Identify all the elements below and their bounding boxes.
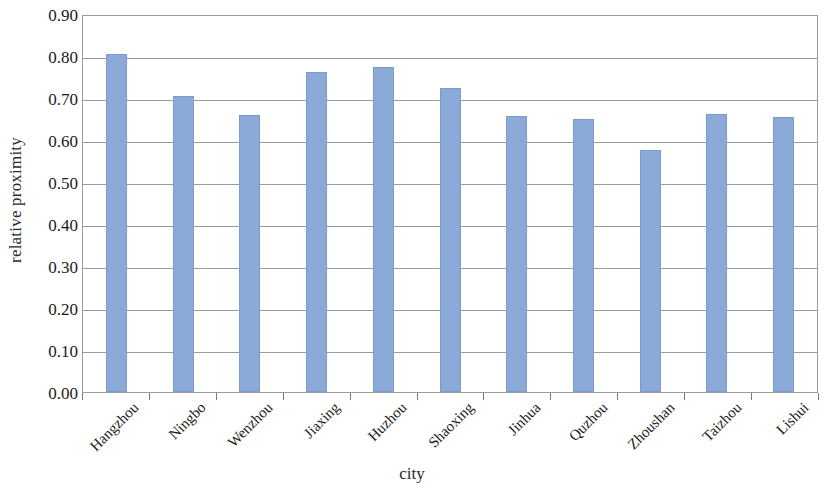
bars-layer	[83, 16, 817, 392]
x-axis-tick-label: Lishui	[773, 400, 811, 438]
x-axis-tick	[216, 393, 217, 400]
bar	[173, 96, 194, 392]
bar-slot	[216, 16, 283, 392]
y-axis-tick-label: 0.00	[28, 385, 78, 402]
x-axis-tick-label: Huzhou	[365, 400, 409, 444]
bar	[573, 119, 594, 392]
x-axis-title: city	[0, 464, 824, 484]
y-axis-tick-label: 0.70	[28, 91, 78, 108]
bar-slot	[283, 16, 350, 392]
x-axis-tick	[417, 393, 418, 400]
bar-slot	[150, 16, 217, 392]
x-axis-tick-label: Jinhua	[505, 400, 543, 438]
x-axis-tick	[283, 393, 284, 400]
bar-slot	[83, 16, 150, 392]
x-axis-tick-label: Taizhou	[700, 400, 745, 445]
y-axis-tick-label: 0.50	[28, 175, 78, 192]
bar-slot	[684, 16, 751, 392]
bar-slot	[750, 16, 817, 392]
x-axis-tick	[751, 393, 752, 400]
y-axis-tick-label: 0.90	[28, 7, 78, 24]
x-axis-tick-label: Zhoushan	[625, 400, 677, 452]
bar	[106, 54, 127, 392]
x-axis-tick-label: Jiaxing	[302, 400, 343, 441]
bar	[306, 72, 327, 392]
bar	[373, 67, 394, 393]
bar-slot	[617, 16, 684, 392]
y-axis-tick-label: 0.10	[28, 343, 78, 360]
x-axis-tick	[483, 393, 484, 400]
x-axis-tick-label: Ningbo	[167, 400, 209, 442]
bar-slot	[483, 16, 550, 392]
bar-slot	[550, 16, 617, 392]
y-axis-tick-label: 0.80	[28, 49, 78, 66]
bar-slot	[417, 16, 484, 392]
bar-chart: relative proximity 0.900.800.700.600.500…	[0, 0, 824, 494]
y-axis-tick-label: 0.60	[28, 133, 78, 150]
x-axis-tick-label: Wenzhou	[225, 400, 275, 450]
bar	[640, 150, 661, 392]
y-axis-tick-label: 0.30	[28, 259, 78, 276]
x-axis-tick	[818, 393, 819, 400]
x-axis-tick-label: Hangzhou	[88, 400, 142, 454]
bar	[506, 116, 527, 392]
x-axis-ticks	[82, 393, 818, 400]
bar-slot	[350, 16, 417, 392]
x-axis-tick-label: Quzhou	[566, 400, 610, 444]
bar	[773, 117, 794, 392]
plot-area	[82, 15, 818, 393]
bar	[239, 115, 260, 392]
y-axis-tick-label: 0.40	[28, 217, 78, 234]
x-axis-tick	[617, 393, 618, 400]
x-axis-tick-label: Shaoxing	[426, 400, 477, 451]
x-axis-tick	[82, 393, 83, 400]
x-axis-tick-labels: HangzhouNingboWenzhouJiaxingHuzhouShaoxi…	[82, 400, 818, 462]
y-axis-tick-label: 0.20	[28, 301, 78, 318]
y-axis-tick-labels: 0.900.800.700.600.500.400.300.200.100.00	[28, 15, 78, 393]
x-axis-tick	[350, 393, 351, 400]
bar	[706, 114, 727, 392]
x-axis-tick	[149, 393, 150, 400]
x-axis-tick	[684, 393, 685, 400]
x-axis-tick	[550, 393, 551, 400]
bar	[440, 88, 461, 392]
y-axis-title-text: relative proximity	[6, 137, 26, 263]
